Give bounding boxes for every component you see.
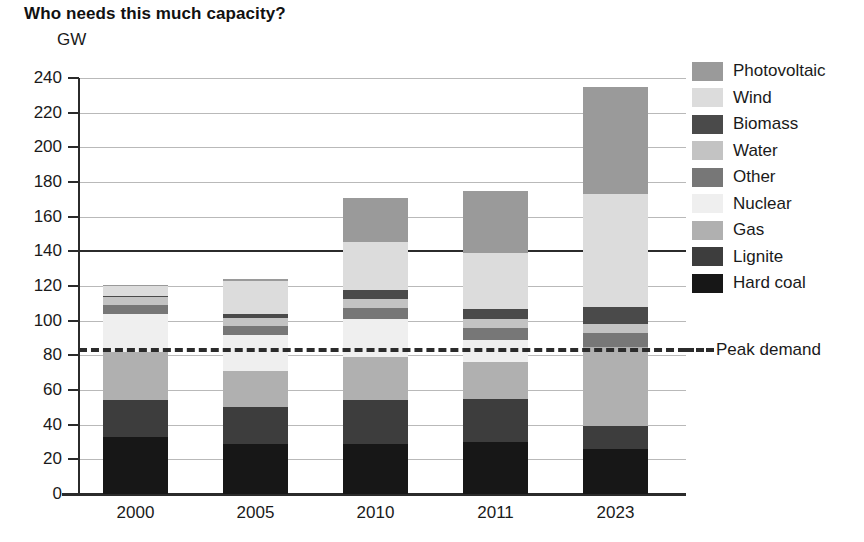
bar-segment-2011-photovoltaic	[463, 191, 528, 253]
bar-segment-2000-photovoltaic	[103, 285, 168, 286]
legend-swatch-icon	[692, 168, 723, 187]
bar-2000	[103, 78, 168, 494]
legend-item-hard-coal[interactable]: Hard coal	[692, 270, 826, 297]
legend-swatch-icon	[692, 221, 723, 240]
chart-legend: PhotovoltaicWindBiomassWaterOtherNuclear…	[692, 58, 826, 297]
bar-segment-2023-photovoltaic	[583, 87, 648, 194]
bar-segment-2000-water	[103, 297, 168, 305]
bar-segment-2000-wind	[103, 285, 168, 295]
y-tick-label-220: 220	[6, 104, 62, 121]
bar-segment-2000-hard-coal	[103, 437, 168, 494]
bar-segment-2011-hard-coal	[463, 442, 528, 494]
bar-segment-2010-biomass	[343, 290, 408, 299]
legend-item-biomass[interactable]: Biomass	[692, 111, 826, 138]
legend-swatch-icon	[692, 141, 723, 160]
y-tick-label-180: 180	[6, 173, 62, 190]
x-tick-label-2011: 2011	[441, 503, 551, 523]
bar-segment-2023-wind	[583, 194, 648, 307]
y-tick-label-80: 80	[6, 346, 62, 363]
bar-segment-2010-photovoltaic	[343, 198, 408, 241]
bar-2005	[223, 78, 288, 494]
bar-segment-2000-nuclear	[103, 314, 168, 352]
bar-segment-2010-wind	[343, 242, 408, 291]
legend-item-water[interactable]: Water	[692, 138, 826, 165]
bar-segment-2023-other	[583, 333, 648, 347]
bar-segment-2023-gas	[583, 347, 648, 427]
bar-segment-2010-gas	[343, 357, 408, 400]
legend-swatch-icon	[692, 274, 723, 293]
y-tick-label-120: 120	[6, 277, 62, 294]
legend-item-label: Wind	[733, 88, 772, 108]
x-tick-label-2005: 2005	[201, 503, 311, 523]
bar-segment-2011-gas	[463, 362, 528, 398]
bar-segment-2011-biomass	[463, 309, 528, 319]
bar-segment-2005-biomass	[223, 314, 288, 318]
legend-item-other[interactable]: Other	[692, 164, 826, 191]
bar-2010	[343, 78, 408, 494]
y-tick-label-160: 160	[6, 208, 62, 225]
bar-segment-2010-other	[343, 308, 408, 319]
y-tick-label-200: 200	[6, 138, 62, 155]
legend-item-label: Biomass	[733, 114, 798, 134]
bar-segment-2023-hard-coal	[583, 449, 648, 494]
legend-swatch-icon	[692, 62, 723, 81]
bar-segment-2005-photovoltaic	[223, 279, 288, 281]
bar-segment-2005-gas	[223, 371, 288, 407]
legend-item-label: Hard coal	[733, 273, 806, 293]
legend-item-label: Gas	[733, 220, 764, 240]
y-tick-label-0: 0	[6, 485, 62, 502]
legend-swatch-icon	[692, 88, 723, 107]
legend-swatch-icon	[692, 194, 723, 213]
bar-segment-2005-lignite	[223, 407, 288, 443]
legend-item-label: Nuclear	[733, 194, 792, 214]
x-tick-label-2010: 2010	[321, 503, 431, 523]
x-tick-label-2000: 2000	[81, 503, 191, 523]
chart-root: Who needs this much capacity? GW 0204060…	[0, 0, 864, 542]
bar-segment-2000-biomass	[103, 296, 168, 298]
bar-segment-2005-wind	[223, 281, 288, 314]
bar-segment-2023-lignite	[583, 426, 648, 449]
legend-item-label: Lignite	[733, 247, 783, 267]
bar-segment-2000-lignite	[103, 400, 168, 436]
bar-segment-2023-biomass	[583, 307, 648, 324]
bar-segment-2000-gas	[103, 352, 168, 401]
legend-item-nuclear[interactable]: Nuclear	[692, 191, 826, 218]
bar-segment-2000-other	[103, 305, 168, 314]
bar-segment-2005-other	[223, 326, 288, 335]
y-tick-label-20: 20	[6, 450, 62, 467]
y-tick-label-240: 240	[6, 69, 62, 86]
peak-demand-line-tail	[686, 348, 714, 352]
bar-segment-2023-water	[583, 324, 648, 333]
peak-demand-line	[79, 348, 686, 352]
bar-2011	[463, 78, 528, 494]
bar-segment-2011-wind	[463, 253, 528, 308]
legend-item-lignite[interactable]: Lignite	[692, 244, 826, 271]
bar-segment-2011-other	[463, 328, 528, 340]
legend-item-gas[interactable]: Gas	[692, 217, 826, 244]
y-axis-line	[78, 78, 80, 495]
legend-swatch-icon	[692, 115, 723, 134]
bar-segment-2005-hard-coal	[223, 444, 288, 494]
legend-item-photovoltaic[interactable]: Photovoltaic	[692, 58, 826, 85]
x-tick-label-2023: 2023	[561, 503, 671, 523]
bar-segment-2011-water	[463, 319, 528, 328]
legend-item-label: Photovoltaic	[733, 61, 826, 81]
legend-item-label: Other	[733, 167, 776, 187]
bar-segment-2005-nuclear	[223, 335, 288, 371]
y-tick-label-140: 140	[6, 242, 62, 259]
bar-segment-2011-lignite	[463, 399, 528, 442]
legend-swatch-icon	[692, 247, 723, 266]
legend-item-wind[interactable]: Wind	[692, 85, 826, 112]
y-tick-label-40: 40	[6, 416, 62, 433]
y-tick-label-60: 60	[6, 381, 62, 398]
legend-item-label: Water	[733, 141, 778, 161]
bar-2023	[583, 78, 648, 494]
bar-segment-2010-water	[343, 299, 408, 308]
peak-demand-label: Peak demand	[716, 340, 821, 360]
bar-segment-2010-hard-coal	[343, 444, 408, 494]
bar-segment-2010-lignite	[343, 400, 408, 443]
bar-segment-2005-water	[223, 318, 288, 326]
y-tick-label-100: 100	[6, 312, 62, 329]
